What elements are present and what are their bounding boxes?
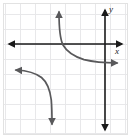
y-axis-label: y xyxy=(109,5,113,14)
axis-labels: y x xyxy=(0,0,131,139)
graph-figure: y x xyxy=(0,0,131,139)
x-axis-label: x xyxy=(115,47,119,56)
